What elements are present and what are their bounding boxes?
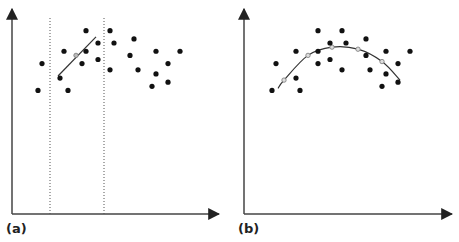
- data-point: [61, 49, 66, 54]
- data-point: [111, 40, 116, 45]
- data-point: [165, 61, 170, 66]
- data-point: [149, 84, 154, 89]
- data-point: [95, 40, 100, 45]
- data-point: [39, 61, 44, 66]
- data-point: [269, 88, 274, 93]
- panel-b: (b): [238, 9, 452, 236]
- data-point: [395, 61, 400, 66]
- data-point: [293, 49, 298, 54]
- data-point: [273, 61, 278, 66]
- data-point: [315, 28, 320, 33]
- figure: (a) (b): [0, 0, 459, 242]
- data-point: [339, 28, 344, 33]
- fit-marker: [282, 78, 286, 82]
- data-point: [367, 67, 372, 72]
- data-point: [343, 40, 348, 45]
- data-point: [363, 36, 368, 41]
- data-point: [127, 53, 132, 58]
- data-point: [407, 49, 412, 54]
- data-point: [65, 88, 70, 93]
- data-point: [131, 36, 136, 41]
- data-point: [95, 57, 100, 62]
- data-point: [327, 40, 332, 45]
- data-point: [383, 71, 388, 76]
- data-point: [339, 67, 344, 72]
- fit-marker: [74, 53, 78, 57]
- data-point: [363, 53, 368, 58]
- data-point: [315, 49, 320, 54]
- data-point: [79, 61, 84, 66]
- data-point: [153, 49, 158, 54]
- panel-a: (a): [6, 9, 219, 236]
- data-point: [383, 49, 388, 54]
- fit-marker: [306, 53, 310, 57]
- fit-marker: [356, 47, 360, 51]
- data-point: [327, 57, 332, 62]
- panel-label-a: (a): [6, 221, 27, 236]
- data-point: [379, 84, 384, 89]
- data-point: [315, 61, 320, 66]
- data-point: [35, 88, 40, 93]
- data-point: [107, 28, 112, 33]
- data-point: [395, 80, 400, 85]
- data-point: [153, 71, 158, 76]
- data-point: [177, 49, 182, 54]
- data-point: [165, 80, 170, 85]
- data-point: [83, 28, 88, 33]
- data-point: [57, 75, 62, 80]
- fit-marker: [380, 59, 384, 63]
- data-point: [293, 75, 298, 80]
- panel-label-b: (b): [238, 221, 259, 236]
- data-point: [297, 88, 302, 93]
- data-point: [107, 67, 112, 72]
- fit-marker: [330, 45, 334, 49]
- data-point: [135, 67, 140, 72]
- data-point: [83, 49, 88, 54]
